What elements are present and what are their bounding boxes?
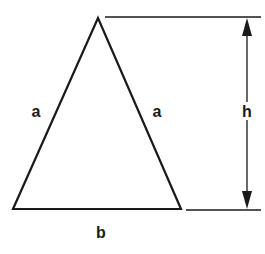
arrow-down-icon (242, 191, 252, 209)
label-left-side: a (32, 103, 41, 120)
label-right-side: a (153, 103, 162, 120)
triangle-diagram: a a h b (0, 0, 265, 254)
arrow-up-icon (242, 18, 252, 36)
label-base: b (96, 224, 106, 241)
label-height: h (242, 103, 252, 120)
